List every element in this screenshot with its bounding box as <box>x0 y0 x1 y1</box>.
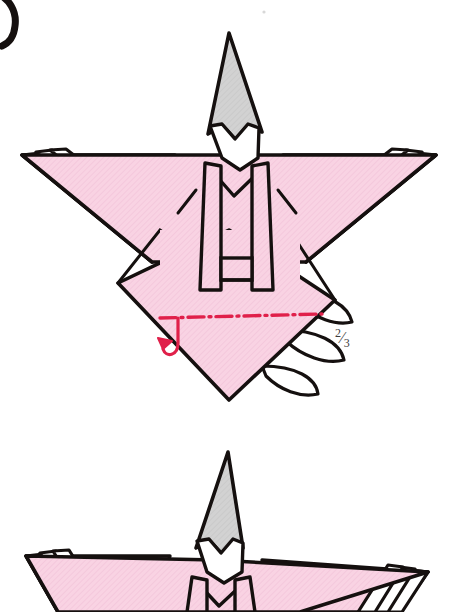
fraction-denominator: 3 <box>344 336 350 350</box>
scan-speck <box>262 10 265 13</box>
obi-sash <box>221 258 252 280</box>
fraction-label-2-3: 2⁄3 <box>335 326 350 351</box>
kimono-right-lapel-2 <box>235 577 255 612</box>
kimono-left-lapel <box>200 163 221 290</box>
kimono-left-lapel-2 <box>187 577 207 612</box>
kimono-right-lapel <box>252 163 273 290</box>
origami-diagram-canvas <box>0 0 457 612</box>
